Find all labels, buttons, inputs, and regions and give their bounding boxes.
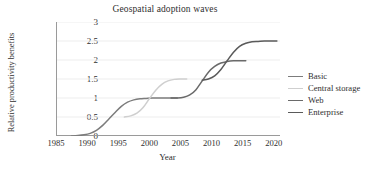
legend-item-enterprise[interactable]: Enterprise [288, 106, 382, 118]
legend-item-label: Enterprise [308, 107, 343, 118]
chart-figure: Geospatial adoption waves Relative produ… [0, 0, 382, 173]
legend-swatch-icon [288, 88, 303, 89]
legend-swatch-icon [288, 100, 303, 101]
chart-title: Geospatial adoption waves [60, 4, 270, 14]
legend-swatch-icon [288, 76, 303, 77]
plot-area [56, 22, 280, 136]
series-lines [72, 41, 277, 136]
legend-item-label: Basic [308, 71, 327, 82]
legend-item-label: Central storage [308, 83, 360, 94]
gridlines [56, 22, 280, 136]
plot-canvas [56, 22, 280, 136]
legend-item-central-storage[interactable]: Central storage [288, 82, 382, 94]
y-axis-title: Relative productivity benefits [7, 20, 16, 146]
legend-swatch-icon [288, 112, 303, 113]
x-tick-label: 2020 [256, 138, 292, 148]
legend-item-basic[interactable]: Basic [288, 70, 382, 82]
x-axis-title: Year [55, 152, 280, 162]
legend-item-web[interactable]: Web [288, 94, 382, 106]
chart-legend: BasicCentral storageWebEnterprise [288, 70, 382, 118]
legend-item-label: Web [308, 95, 324, 106]
